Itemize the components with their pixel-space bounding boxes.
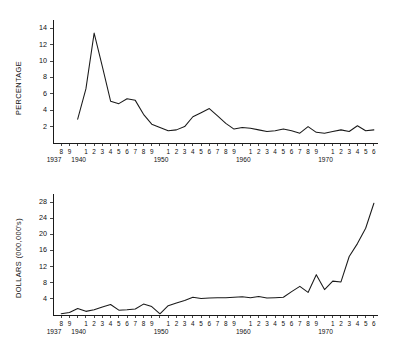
dollars-x-axis-decade-labels: 19371940195019601970: [47, 328, 334, 335]
percentage-series-line: [78, 33, 374, 133]
svg-text:3: 3: [347, 320, 351, 327]
svg-text:1: 1: [84, 148, 88, 155]
svg-text:8: 8: [306, 320, 310, 327]
svg-text:9: 9: [68, 148, 72, 155]
svg-text:3: 3: [101, 320, 105, 327]
svg-text:5: 5: [364, 320, 368, 327]
svg-text:7: 7: [298, 148, 302, 155]
svg-text:5: 5: [117, 148, 121, 155]
svg-text:4: 4: [43, 294, 47, 303]
svg-text:9: 9: [315, 320, 319, 327]
svg-text:2: 2: [175, 148, 179, 155]
dollars-chart: DOLLARS (000,000's) 481216202428 8912345…: [0, 175, 398, 349]
svg-text:7: 7: [133, 148, 137, 155]
svg-text:7: 7: [216, 320, 220, 327]
svg-text:3: 3: [265, 148, 269, 155]
svg-text:4: 4: [356, 320, 360, 327]
svg-text:2: 2: [257, 148, 261, 155]
percentage-x-axis-ticks: 89123456789123456789123456789123456: [59, 143, 376, 155]
percentage-y-axis-ticks: 2468101214: [39, 23, 53, 130]
svg-text:7: 7: [298, 320, 302, 327]
svg-text:6: 6: [372, 320, 376, 327]
svg-text:1: 1: [166, 148, 170, 155]
svg-text:1950: 1950: [154, 328, 169, 335]
dollars-chart-svg: DOLLARS (000,000's) 481216202428 8912345…: [0, 175, 398, 349]
svg-text:5: 5: [282, 148, 286, 155]
svg-text:9: 9: [232, 320, 236, 327]
svg-text:8: 8: [142, 148, 146, 155]
svg-text:8: 8: [306, 148, 310, 155]
dollars-y-axis-ticks: 481216202428: [39, 197, 53, 303]
svg-text:6: 6: [208, 148, 212, 155]
svg-text:2: 2: [92, 320, 96, 327]
dollars-series-line: [61, 203, 374, 314]
dollars-x-axis-ticks: 89123456789123456789123456789123456: [59, 315, 376, 327]
svg-text:8: 8: [43, 278, 47, 287]
svg-text:20: 20: [39, 229, 47, 238]
svg-text:1: 1: [84, 320, 88, 327]
svg-text:2: 2: [175, 320, 179, 327]
svg-text:6: 6: [125, 320, 129, 327]
figure-container: PERCENTAGE 2468101214 891234567891234567…: [0, 0, 398, 349]
svg-text:9: 9: [150, 148, 154, 155]
svg-text:4: 4: [43, 105, 47, 114]
svg-text:1940: 1940: [71, 156, 86, 163]
svg-text:3: 3: [265, 320, 269, 327]
svg-text:1: 1: [166, 320, 170, 327]
svg-text:1: 1: [249, 148, 253, 155]
svg-text:5: 5: [282, 320, 286, 327]
svg-text:4: 4: [273, 148, 277, 155]
svg-text:9: 9: [150, 320, 154, 327]
svg-text:8: 8: [224, 320, 228, 327]
svg-text:5: 5: [199, 148, 203, 155]
svg-text:9: 9: [315, 148, 319, 155]
svg-text:28: 28: [39, 197, 47, 206]
svg-text:10: 10: [39, 56, 47, 65]
svg-text:6: 6: [290, 320, 294, 327]
svg-text:24: 24: [39, 213, 47, 222]
dollars-y-axis-title: DOLLARS (000,000's): [14, 218, 23, 298]
svg-text:6: 6: [372, 148, 376, 155]
percentage-x-axis-decade-labels: 19371940195019601970: [47, 156, 334, 163]
svg-text:4: 4: [356, 148, 360, 155]
svg-text:2: 2: [257, 320, 261, 327]
svg-text:2: 2: [92, 148, 96, 155]
svg-text:8: 8: [43, 72, 47, 81]
svg-text:4: 4: [191, 320, 195, 327]
svg-text:9: 9: [232, 148, 236, 155]
svg-text:1937: 1937: [47, 156, 62, 163]
svg-text:8: 8: [142, 320, 146, 327]
svg-text:2: 2: [339, 320, 343, 327]
percentage-chart: PERCENTAGE 2468101214 891234567891234567…: [0, 0, 398, 175]
svg-text:1950: 1950: [154, 156, 169, 163]
svg-text:3: 3: [183, 320, 187, 327]
svg-text:6: 6: [208, 320, 212, 327]
svg-text:1: 1: [249, 320, 253, 327]
svg-text:14: 14: [39, 23, 47, 32]
svg-text:1970: 1970: [318, 156, 333, 163]
svg-text:3: 3: [347, 148, 351, 155]
svg-text:1960: 1960: [236, 328, 251, 335]
svg-text:1970: 1970: [318, 328, 333, 335]
svg-text:1: 1: [331, 148, 335, 155]
svg-text:8: 8: [59, 148, 63, 155]
svg-text:5: 5: [117, 320, 121, 327]
svg-text:4: 4: [109, 148, 113, 155]
svg-text:8: 8: [224, 148, 228, 155]
svg-text:5: 5: [364, 148, 368, 155]
svg-text:1960: 1960: [236, 156, 251, 163]
svg-text:6: 6: [290, 148, 294, 155]
svg-text:4: 4: [109, 320, 113, 327]
svg-text:8: 8: [59, 320, 63, 327]
svg-text:3: 3: [101, 148, 105, 155]
svg-text:3: 3: [183, 148, 187, 155]
percentage-chart-svg: PERCENTAGE 2468101214 891234567891234567…: [0, 0, 398, 175]
svg-text:2: 2: [339, 148, 343, 155]
svg-text:1940: 1940: [71, 328, 86, 335]
svg-text:1: 1: [331, 320, 335, 327]
svg-text:4: 4: [273, 320, 277, 327]
svg-text:6: 6: [43, 89, 47, 98]
percentage-y-axis-title: PERCENTAGE: [14, 61, 23, 115]
svg-text:6: 6: [125, 148, 129, 155]
svg-text:4: 4: [191, 148, 195, 155]
